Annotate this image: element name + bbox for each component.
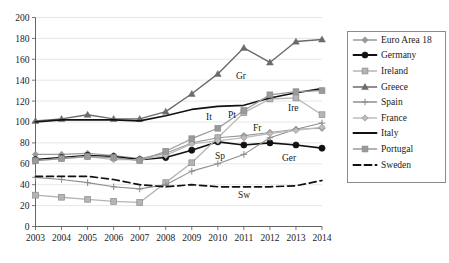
legend-marker-icon xyxy=(352,64,378,78)
x-tick-label: 2011 xyxy=(235,233,254,243)
data-point xyxy=(362,68,368,74)
legend-label: Italy xyxy=(378,128,398,138)
data-point xyxy=(319,88,325,94)
legend-item-germany[interactable]: Germany xyxy=(348,48,445,64)
x-tick-label: 2009 xyxy=(182,233,201,243)
data-point xyxy=(59,156,65,162)
data-point xyxy=(163,148,169,154)
gridlines xyxy=(36,18,323,227)
legend-marker-icon xyxy=(352,111,378,125)
legend-label: Spain xyxy=(378,97,403,107)
annotation-it: It xyxy=(206,112,212,122)
y-tick-label: 80 xyxy=(20,138,30,148)
data-point xyxy=(293,89,299,95)
data-point xyxy=(240,44,247,50)
series-layer xyxy=(32,36,325,205)
annotation-sw: Sw xyxy=(238,190,250,200)
y-tick-label: 200 xyxy=(15,13,30,23)
x-axis: 2003200420052006200720082009201020112012… xyxy=(26,227,332,243)
annotation-ire: Ire xyxy=(288,103,299,113)
series-greece xyxy=(32,36,325,124)
data-point xyxy=(362,115,368,121)
x-tick-label: 2013 xyxy=(286,233,305,243)
data-point xyxy=(319,112,325,118)
data-point xyxy=(59,194,65,200)
x-tick-label: 2006 xyxy=(104,233,123,243)
x-tick-label: 2003 xyxy=(26,233,45,243)
chart-legend: Euro Area 18GermanyIrelandGreeceSpainFra… xyxy=(347,31,446,183)
data-point xyxy=(137,158,143,164)
data-point xyxy=(241,142,247,148)
legend-label: Greece xyxy=(378,82,408,92)
annotation-fr: Fr xyxy=(253,123,262,133)
data-point xyxy=(189,147,195,153)
legend-marker-icon xyxy=(352,142,378,156)
legend-item-euro-area-18[interactable]: Euro Area 18 xyxy=(348,32,445,48)
legend-label: Sweden xyxy=(378,160,411,170)
legend-marker-icon xyxy=(352,48,378,62)
data-point xyxy=(85,154,91,160)
x-tick-label: 2010 xyxy=(208,233,227,243)
data-point xyxy=(33,158,39,164)
legend-label: Euro Area 18 xyxy=(378,35,432,45)
x-tick-label: 2012 xyxy=(260,233,279,243)
y-tick-label: 20 xyxy=(20,201,30,211)
legend-marker-icon xyxy=(352,158,378,172)
y-tick-label: 180 xyxy=(15,34,30,44)
data-point xyxy=(241,108,247,114)
legend-marker-icon xyxy=(352,126,378,140)
x-tick-label: 2008 xyxy=(156,233,175,243)
legend-label: France xyxy=(378,113,407,123)
data-point xyxy=(111,199,117,205)
y-tick-label: 140 xyxy=(15,76,30,86)
data-point xyxy=(111,155,117,161)
legend-item-italy[interactable]: Italy xyxy=(348,126,445,142)
legend-label: Germany xyxy=(378,50,416,60)
annotation-gr: Gr xyxy=(236,71,247,81)
data-point xyxy=(84,111,91,117)
data-point xyxy=(362,52,368,58)
data-point xyxy=(215,125,221,131)
y-axis: 020406080100120140160180200 xyxy=(15,13,35,232)
y-tick-label: 160 xyxy=(15,55,30,65)
legend-item-portugal[interactable]: Portugal xyxy=(348,141,445,157)
data-point xyxy=(319,145,325,151)
legend-item-sweden[interactable]: Sweden xyxy=(348,157,445,173)
y-tick-label: 120 xyxy=(15,97,30,107)
legend-item-france[interactable]: France xyxy=(348,110,445,126)
x-tick-label: 2005 xyxy=(78,233,97,243)
legend-item-spain[interactable]: Spain xyxy=(348,94,445,110)
annotation-sp: Sp xyxy=(215,151,225,161)
data-point xyxy=(189,136,195,142)
annotation-ger: Ger xyxy=(282,153,297,163)
annotation-pt: Pt xyxy=(228,110,236,120)
data-point xyxy=(362,146,368,152)
data-point xyxy=(189,160,195,166)
legend-marker-icon xyxy=(352,80,378,94)
line-chart: 020406080100120140160180200 200320042005… xyxy=(0,0,449,263)
x-tick-label: 2007 xyxy=(130,233,149,243)
legend-marker-icon xyxy=(352,33,378,47)
legend-label: Portugal xyxy=(378,144,413,154)
data-point xyxy=(137,200,143,206)
data-point xyxy=(33,192,39,198)
data-point xyxy=(85,196,91,202)
legend-item-greece[interactable]: Greece xyxy=(348,79,445,95)
data-point xyxy=(293,142,299,148)
y-tick-label: 40 xyxy=(20,180,30,190)
x-tick-label: 2004 xyxy=(52,233,71,243)
legend-marker-icon xyxy=(352,95,378,109)
y-tick-label: 0 xyxy=(25,222,30,232)
x-tick-label: 2014 xyxy=(313,233,332,243)
legend-label: Ireland xyxy=(378,66,408,76)
y-tick-label: 60 xyxy=(20,159,30,169)
legend-item-ireland[interactable]: Ireland xyxy=(348,63,445,79)
y-tick-label: 100 xyxy=(15,117,30,127)
data-point xyxy=(362,37,368,43)
data-point xyxy=(293,95,299,101)
data-point xyxy=(267,92,273,98)
data-point xyxy=(162,108,169,114)
